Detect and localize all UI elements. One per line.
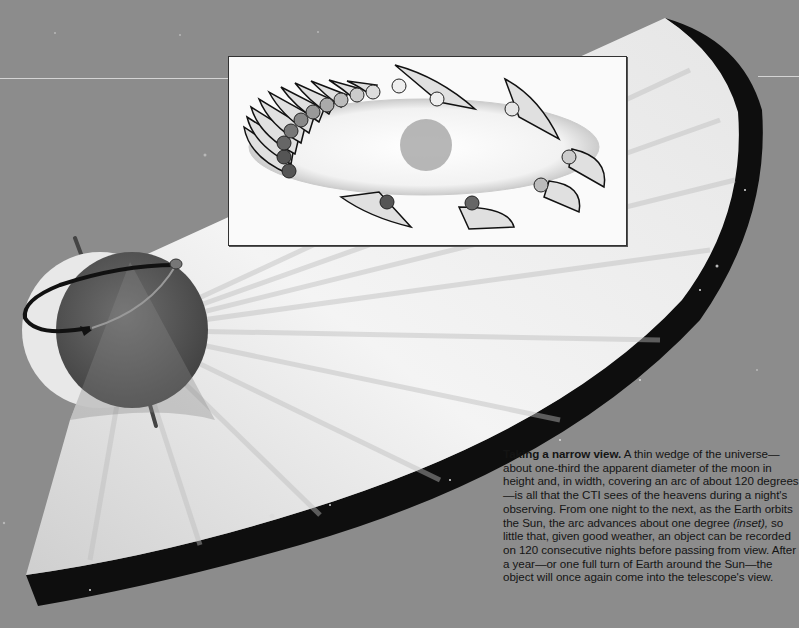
figure-caption: Taking a narrow view. A thin wedge of th… (503, 447, 799, 584)
inset-orbit-diagram (228, 56, 627, 246)
sun-icon (400, 119, 452, 171)
orbit-svg (229, 57, 626, 245)
caption-title: Taking a narrow view. (503, 447, 621, 460)
illustration: Taking a narrow view. A thin wedge of th… (0, 0, 799, 628)
caption-inset-ref: (inset), (733, 516, 768, 529)
